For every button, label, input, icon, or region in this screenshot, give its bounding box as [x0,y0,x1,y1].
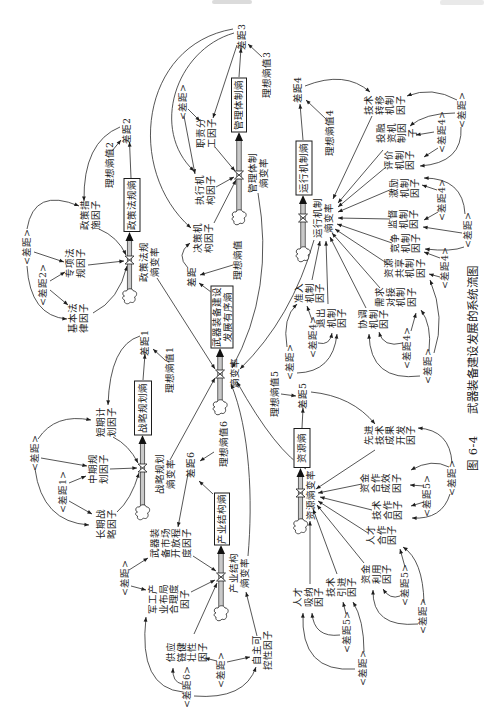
arrowhead-icon [307,306,311,311]
management-gap-label: 差距3 [237,24,248,50]
system-flow-diagram: 武器装备建设 发展有序熵 熵变率 差距 理想熵值 政策法规熵 政策法规 熵变率 … [0,0,498,721]
flow-arrowhead-icon [299,195,307,204]
causal-link [117,473,139,512]
resource-factor-label: 资金 利用 因子 [361,564,393,584]
resource-factor-label: 资金 合作 成效 因子 [360,473,402,493]
resource-factor-label: 先进 技术 成果 开发 因子 [364,425,417,445]
valve-icon [299,214,308,222]
arrowhead-icon [411,503,416,507]
causal-link [184,116,195,174]
shadow-variable-label: <差距4> [440,247,451,289]
arrowhead-icon [308,521,312,526]
causal-link [312,613,340,635]
arrowhead-icon [311,613,315,618]
shadow-variable-label: <差距5> [422,475,433,517]
arrowhead-icon [424,153,429,157]
arrowhead-icon [144,617,148,622]
management-factor-label: 决策机 构因子 [193,223,214,253]
shadow-variable-label: <差距> [120,560,131,596]
causal-link [312,241,320,280]
causal-link [337,224,392,243]
arrowhead-icon [316,485,321,489]
causal-link [423,227,462,233]
causal-link [150,29,233,228]
arrowhead-icon [199,283,204,287]
causal-link [335,229,388,264]
arrowhead-icon [291,394,296,398]
causal-link [113,437,138,463]
shadow-variable-label: <差距> [463,212,474,248]
resource-ideal-label: 理想熵值5 [270,371,281,417]
causal-link [215,147,235,171]
central-ideal-label: 理想熵值 [233,240,244,280]
arrowhead-icon [407,93,412,97]
arrowhead-icon [324,241,328,246]
source-cloud-icon [136,505,150,520]
source-cloud-icon [232,210,246,225]
industry-ideal-label: 理想熵值6 [219,421,230,467]
central-flow-pipe [213,348,227,415]
causal-link [41,458,87,466]
operation-factor-label: 监督 机制 因子 [388,209,420,229]
arrowhead-icon [422,185,427,189]
arrowhead-icon [200,457,205,461]
management-stock-box: 管理体制熵 [231,77,247,132]
shadow-variable-label: <差距4> [437,111,448,153]
operation-factor-label: 准入 机制 因子 [294,283,326,303]
causal-link [38,419,91,439]
flow-arrowhead-icon [139,435,147,444]
shadow-variable-label: <差距2> [38,264,49,306]
causal-link [407,92,457,100]
causal-link [418,428,452,463]
resource-factor-label: 人才 吸纳 因子 [293,587,325,607]
shadow-variable-label: <差距> [457,92,468,128]
causal-link [353,602,364,652]
arrowhead-icon [335,229,340,233]
policy-flow-pipe [123,232,137,304]
valve-icon [125,256,134,264]
policy-ideal-label: 理想熵值2 [105,142,116,188]
strategy-ideal-label: 理想熵值1 [165,347,176,393]
causal-link [373,590,418,624]
causal-link [300,104,303,140]
operation-factor-label: 需求 对接 机制 因子 [375,287,417,307]
operation-factor-label: 投融 资机 制因 子 [376,123,418,143]
valve-icon [235,171,244,179]
policy-factor-label: 政策措 施因子 [80,200,101,230]
arrowhead-icon [81,476,86,480]
causal-link [305,79,370,92]
arrowhead-icon [365,88,370,92]
management-rate-label: 管理体制 熵变率 [248,153,269,193]
central-gap-label: 差距 [187,267,198,287]
causal-link [34,252,64,262]
strategy-stock-box: 战略规划熵 [134,380,152,435]
arrowhead-icon [421,310,425,315]
arrowhead-icon [245,656,250,660]
causal-link [318,333,332,344]
causal-link [320,497,372,510]
causal-link [411,463,449,470]
arrowhead-icon [132,466,137,470]
causal-link [88,261,124,265]
pipe [298,476,302,522]
arrowhead-icon [429,273,434,277]
source-cloud-icon [294,519,308,534]
operation-factor-label: 竞争 机制 因子 [390,233,422,253]
shadow-variable-label: <差距4> [308,316,319,358]
pipe [301,203,305,250]
shadow-variable-label: <差距6> [182,666,193,708]
operation-factor-label: 协调 机制 因子 [358,309,390,329]
resource-factor-label: 人才 合作 因子 [366,525,398,545]
causal-link [379,332,403,344]
shadow-variable-label: <差距> [423,348,434,384]
industry-flow-pipe [214,545,228,621]
page-header-fragment [440,0,484,5]
central-rate-label: 熵变率 [230,358,241,388]
policy-rate-label: 政策法规 熵变率 [139,242,160,282]
central-stock-box: 武器装备建设 发展有序熵 [210,285,233,348]
shadow-variable-label: <差距> [178,84,189,120]
causal-link [332,233,380,288]
arrowhead-icon [192,169,196,174]
page-shadow [212,0,252,4]
operation-rate-label: 运行机制 熵变率 [313,198,334,238]
